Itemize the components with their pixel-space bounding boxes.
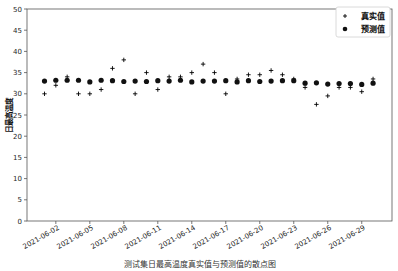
x-tick-label: 2021-06-29 — [328, 224, 367, 251]
circle-marker-icon — [291, 78, 296, 83]
y-tick-label: 0 — [18, 218, 22, 226]
x-tick-label: 2021-06-23 — [260, 224, 299, 251]
x-tick-label: 2021-06-26 — [294, 224, 334, 252]
circle-marker-icon — [246, 78, 251, 83]
circle-marker-icon — [99, 78, 104, 83]
x-tick-label: 2021-06-14 — [158, 224, 198, 252]
circle-marker-icon — [53, 78, 58, 83]
circle-marker-icon — [336, 81, 341, 86]
circle-marker-icon — [167, 78, 172, 83]
y-tick-label: 20 — [13, 133, 22, 141]
x-tick-label: 2021-06-02 — [22, 224, 61, 251]
circle-marker-icon — [110, 78, 115, 83]
plot-area — [27, 9, 392, 221]
y-tick-label: 35 — [13, 69, 22, 77]
y-tick-label: 5 — [18, 196, 22, 204]
scatter-chart: 05101520253035404550 2021-06-022021-06-0… — [0, 0, 398, 271]
circle-marker-icon — [348, 81, 353, 86]
circle-marker-icon — [42, 78, 47, 83]
x-tick-label: 2021-06-17 — [192, 224, 231, 251]
legend: 真实值 预测值 — [336, 7, 390, 37]
circle-marker-icon — [87, 79, 92, 84]
y-tick-label: 10 — [13, 175, 22, 183]
circle-marker-icon — [189, 79, 194, 84]
circle-marker-icon — [155, 78, 160, 83]
legend-label-predicted: 预测值 — [361, 24, 385, 34]
circle-marker-icon — [76, 78, 81, 83]
y-tick-label: 40 — [13, 48, 22, 56]
x-tick-label: 2021-06-11 — [124, 224, 163, 251]
circle-marker-icon — [121, 79, 126, 84]
y-tick-label: 50 — [13, 6, 22, 14]
circle-marker-icon — [269, 78, 274, 83]
circle-marker-icon — [343, 27, 348, 32]
circle-marker-icon — [201, 78, 206, 83]
y-tick-label: 45 — [13, 27, 22, 35]
x-axis: 2021-06-022021-06-052021-06-082021-06-11… — [22, 221, 367, 251]
circle-marker-icon — [370, 81, 375, 86]
y-axis-label: 日最高温度 — [4, 97, 14, 133]
circle-marker-icon — [280, 78, 285, 83]
circle-marker-icon — [235, 79, 240, 84]
y-axis: 05101520253035404550 — [13, 6, 27, 226]
circle-marker-icon — [144, 79, 149, 84]
y-tick-label: 15 — [13, 154, 22, 162]
y-tick-label: 25 — [13, 112, 22, 120]
plot-frame — [27, 9, 392, 221]
circle-marker-icon — [325, 81, 330, 86]
chart-title: 测试集日最高温度真实值与预测值的散点图 — [124, 259, 276, 269]
circle-marker-icon — [257, 79, 262, 84]
circle-marker-icon — [178, 78, 183, 83]
legend-label-actual: 真实值 — [361, 11, 385, 21]
circle-marker-icon — [223, 78, 228, 83]
circle-marker-icon — [65, 78, 70, 83]
circle-marker-icon — [359, 82, 364, 87]
x-tick-label: 2021-06-08 — [90, 224, 129, 251]
circle-marker-icon — [212, 78, 217, 83]
circle-marker-icon — [302, 81, 307, 86]
circle-marker-icon — [314, 80, 319, 85]
x-tick-label: 2021-06-05 — [56, 224, 95, 251]
y-tick-label: 30 — [13, 90, 22, 98]
x-tick-label: 2021-06-20 — [226, 224, 265, 251]
circle-marker-icon — [133, 78, 138, 83]
